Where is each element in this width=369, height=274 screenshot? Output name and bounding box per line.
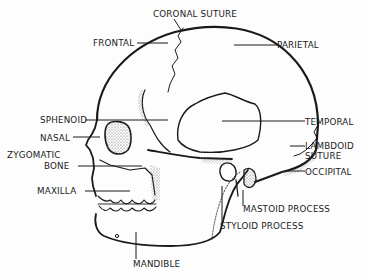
label-frontal: FRONTAL (93, 38, 134, 48)
upper-teeth (98, 196, 155, 204)
label-mandible: MANDIBLE (133, 259, 180, 269)
label-occipital: OCCIPITAL (305, 167, 352, 177)
label-maxilla: MAXILLA (37, 186, 76, 196)
label-lambdoid-suture-2: SUTURE (305, 151, 341, 161)
temporal-outline (178, 93, 261, 152)
label-zygomatic-bone-1: ZYGOMATIC (7, 150, 61, 160)
label-parietal: PARIETAL (277, 40, 319, 50)
coronal-suture-line (168, 28, 183, 92)
label-styloid-process: STYLOID PROCESS (220, 221, 303, 231)
label-nasal: NASAL (40, 133, 70, 143)
label-mastoid-process: MASTOID PROCESS (243, 204, 330, 214)
maxilla-outline (100, 160, 155, 195)
lower-teeth (99, 206, 156, 211)
zygomatic-arch (148, 150, 232, 159)
label-sphenoid: SPHENOID (40, 115, 87, 125)
shading (105, 90, 316, 200)
mental-foramen (115, 234, 118, 237)
label-coronal-suture: CORONAL SUTURE (153, 9, 237, 19)
skull-diagram: CORONAL SUTURE FRONTAL PARIETAL SPHENOID… (0, 0, 369, 274)
face-profile (86, 120, 97, 196)
external-auditory-meatus (220, 163, 236, 181)
label-temporal: TEMPORAL (305, 117, 354, 127)
label-zygomatic-bone-2: BONE (44, 161, 70, 171)
